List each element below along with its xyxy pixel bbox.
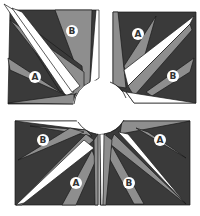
svg-text:A: A	[157, 135, 164, 145]
svg-text:A: A	[73, 178, 80, 188]
block-bottom-right	[100, 121, 190, 205]
label-bl-a: A	[70, 177, 82, 189]
svg-text:B: B	[170, 71, 177, 81]
label-tr-b: B	[167, 70, 179, 82]
star-point-right-edge	[94, 134, 98, 205]
block-top-right	[113, 12, 196, 103]
label-br-b: B	[123, 177, 135, 189]
svg-text:B: B	[126, 178, 133, 188]
svg-text:B: B	[69, 26, 76, 36]
label-tl-a: A	[29, 71, 41, 83]
label-bl-b: B	[37, 134, 49, 146]
label-tr-a: A	[132, 28, 144, 40]
svg-text:A: A	[135, 29, 142, 39]
label-br-a: A	[154, 134, 166, 146]
compass-quilt-diagram: B A A B B A A B	[0, 0, 200, 216]
label-tl-b: B	[66, 25, 78, 37]
block-bottom-left	[15, 121, 98, 205]
svg-text:A: A	[32, 72, 39, 82]
svg-text:B: B	[40, 135, 47, 145]
